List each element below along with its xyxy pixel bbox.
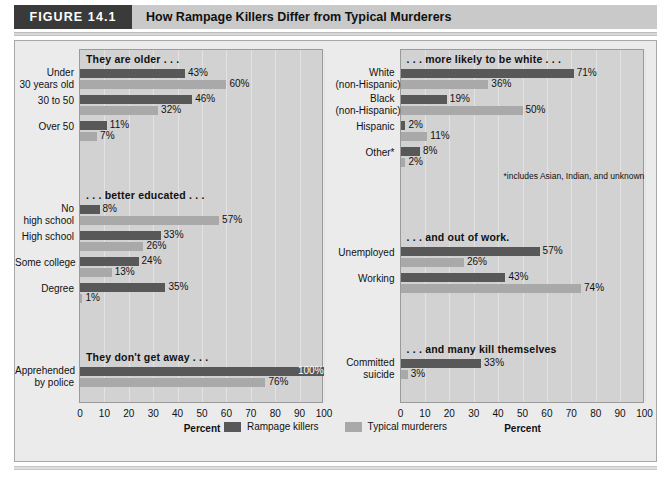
chart-panel-right: . . . more likely to be white . . .White… [336,41,657,461]
value-label-rampage: 24% [142,256,162,265]
value-label-rampage: 43% [188,68,208,77]
x-axis-tick: 70 [566,408,577,419]
gridline [620,50,621,402]
legend-item-typical: Typical murderers [345,421,447,432]
x-axis-tick: 30 [148,408,159,419]
bar-rampage [80,121,107,130]
legend-label-rampage: Rampage killers [247,421,319,432]
bar-typical [80,294,82,303]
category-label: Working [336,273,395,285]
bar-typical [80,132,97,141]
bar-typical [80,268,112,277]
chart-panel-left: They are older . . .Under30 years old43%… [15,41,336,461]
x-axis: 0102030405060708090100 [336,408,657,420]
value-label-typical: 74% [584,283,604,292]
bar-typical [80,106,158,115]
bar-rampage [401,273,506,282]
x-axis-tick: 70 [245,408,256,419]
value-label-typical: 26% [146,241,166,250]
category-label: Committedsuicide [336,357,395,380]
x-axis-tick: 20 [123,408,134,419]
value-label-rampage: 33% [164,230,184,239]
value-label-rampage: 100% [298,366,324,375]
value-label-typical: 50% [526,105,546,114]
value-label-rampage: 8% [103,204,117,213]
header-divider [14,32,657,36]
value-label-typical: 1% [85,293,99,302]
category-label-line: Black [370,93,394,104]
footer-divider [14,466,657,470]
value-label-typical: 60% [229,79,249,88]
bar-rampage [80,367,324,376]
x-axis-tick: 50 [196,408,207,419]
category-label: Some college [15,257,74,269]
bar-typical [401,106,523,115]
category-label: Nohigh school [15,203,74,226]
bar-typical [80,80,226,89]
x-axis-tick: 0 [398,408,404,419]
x-axis-tick: 60 [541,408,552,419]
gridline [226,50,227,402]
x-axis-tick: 80 [590,408,601,419]
value-label-typical: 76% [268,377,288,386]
x-axis-tick: 40 [172,408,183,419]
x-axis-tick: 10 [99,408,110,419]
gridline [300,50,301,402]
value-label-typical: 36% [491,79,511,88]
figure-container: FIGURE 14.1 How Rampage Killers Differ f… [0,0,671,481]
value-label-typical: 3% [411,369,425,378]
section-title: . . . better educated . . . [86,189,205,201]
section-title: They are older . . . [86,53,179,65]
category-label-line: Committed [346,357,394,368]
category-label-line: Over 50 [38,121,74,132]
category-label-line: Working [358,273,395,284]
category-label-line: by police [35,377,74,388]
value-label-rampage: 43% [508,272,528,281]
x-axis-tick: 20 [444,408,455,419]
bar-rampage [401,359,482,368]
value-label-typical: 32% [161,105,181,114]
value-label-typical: 13% [115,267,135,276]
bar-rampage [80,69,185,78]
x-axis: 0102030405060708090100 [15,408,336,420]
figure-header: FIGURE 14.1 How Rampage Killers Differ f… [14,5,657,29]
category-label: Hispanic [336,121,395,133]
category-label-line: (non-Hispanic) [336,79,401,90]
category-label-line: No [61,203,74,214]
value-label-typical: 57% [222,215,242,224]
value-label-typical: 11% [430,131,449,140]
footnote-text: *includes Asian, Indian, and unknown [504,171,645,181]
x-axis-tick: 40 [493,408,504,419]
x-axis-tick: 100 [636,408,653,419]
category-label-line: Some college [15,257,76,268]
bar-typical [401,80,489,89]
category-label-line: Unemployed [338,247,394,258]
gridline [275,50,276,402]
value-label-rampage: 57% [543,246,563,255]
bar-typical [401,284,582,293]
bar-typical [80,216,219,225]
figure-number-badge: FIGURE 14.1 [14,5,132,29]
value-label-rampage: 11% [110,120,129,129]
x-axis-tick: 0 [77,408,83,419]
category-label-line: (non-Hispanic) [336,105,401,116]
section-title: . . . more likely to be white . . . [407,53,562,65]
category-label: High school [15,231,74,243]
section-title: They don't get away . . . [86,351,208,363]
value-label-rampage: 71% [577,68,597,77]
x-axis-tick: 50 [517,408,528,419]
value-label-rampage: 33% [484,358,504,367]
category-label: Under30 years old [15,67,74,90]
category-label-line: Other* [366,147,395,158]
bar-rampage [80,283,165,292]
category-label: Black(non-Hispanic) [336,93,395,116]
bar-rampage [401,121,406,130]
x-axis-tick: 90 [615,408,626,419]
chart-legend: Rampage killers Typical murderers [15,421,656,432]
bar-typical [401,370,408,379]
category-label-line: Degree [41,283,74,294]
value-label-typical: 7% [100,131,114,140]
x-axis-tick: 60 [221,408,232,419]
bar-typical [401,258,464,267]
category-label-line: suicide [363,369,394,380]
